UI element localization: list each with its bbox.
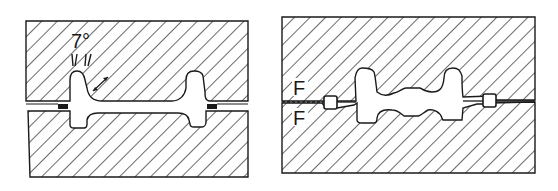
- label-f-lower: F: [293, 107, 305, 129]
- right-lower-die: [282, 102, 535, 173]
- left-panel: 7°: [26, 21, 248, 177]
- left-upper-die: [26, 21, 248, 101]
- label-f-upper: F: [293, 77, 305, 99]
- right-flash-gutter-right: [483, 94, 496, 107]
- left-flash-right: [207, 104, 217, 109]
- left-flash-left: [58, 104, 68, 109]
- right-upper-die: [282, 17, 535, 101]
- draft-tick-3: [85, 54, 86, 66]
- right-panel: F F: [282, 17, 535, 173]
- right-flash-gutter-left: [324, 96, 337, 109]
- left-lower-die: [28, 111, 248, 177]
- forging-die-diagram: 7° F F: [0, 0, 558, 191]
- draft-tick-1: [72, 54, 73, 66]
- angle-label: 7°: [71, 30, 90, 52]
